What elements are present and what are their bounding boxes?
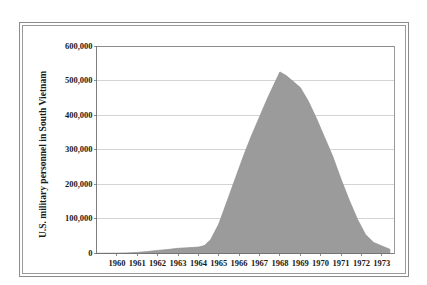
y-tick-label-400000: 400,000 [37,111,93,120]
x-tick-label-1973: 1973 [369,258,395,268]
y-tick-label-500000: 500,000 [37,76,93,85]
y-axis-title: U.S. military personnel in South Vietnam [36,38,50,238]
y-tick-label-300000: 300,000 [37,145,93,154]
y-tick-label-100000: 100,000 [37,214,93,223]
data-area-series [97,72,390,254]
chart-figure: U.S. military personnel in South Vietnam… [0,0,427,285]
y-tick-label-0: 0 [37,249,93,258]
y-tick-label-200000: 200,000 [37,180,93,189]
area-series-personnel [97,72,390,254]
y-tick-label-600000: 600,000 [37,42,93,51]
